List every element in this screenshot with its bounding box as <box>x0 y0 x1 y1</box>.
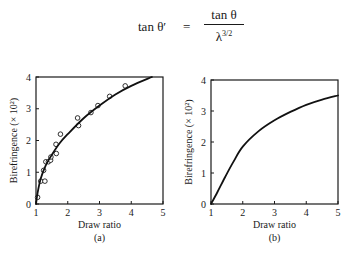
y-axis-label: Birefringence (× 10²) <box>183 99 195 184</box>
x-tick-label: 2 <box>240 207 245 218</box>
y-tick-label: 4 <box>201 75 206 86</box>
x-tick-label: 5 <box>336 207 341 218</box>
x-tick-label: 1 <box>209 207 214 218</box>
chart-b: 1234501234Draw ratio(b)Birefringence (× … <box>0 0 352 258</box>
panel-label: (b) <box>269 232 281 244</box>
y-tick-label: 1 <box>201 168 206 179</box>
x-axis-label: Draw ratio <box>253 219 296 230</box>
y-tick-label: 0 <box>201 199 206 210</box>
y-tick-label: 3 <box>201 106 206 117</box>
x-tick-label: 4 <box>304 207 309 218</box>
plot-frame <box>211 80 338 204</box>
y-tick-label: 2 <box>201 137 206 148</box>
x-tick-label: 3 <box>272 207 277 218</box>
series-line-theory <box>211 96 338 205</box>
